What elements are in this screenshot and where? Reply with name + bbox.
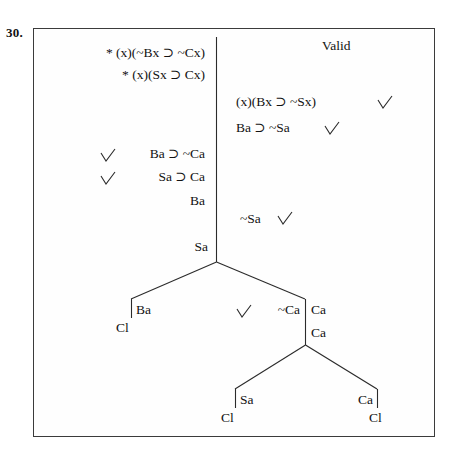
branch1-right-stem-1: Ca [311,303,326,317]
branch2-left-closed: Cl [221,411,234,425]
left-formula-3: Ba [0,194,205,208]
premise-2: * (x)(Sx ⊃ Cx) [0,68,205,82]
tree-proof-page: 30. Valid * (x)(~Bx ⊃ ~Cx) * (x)(Sx ⊃ Cx… [0,0,460,459]
proof-box [33,28,435,437]
trunk-node-2: Sa [0,240,208,254]
left-formula-2: Sa ⊃ Ca [0,170,205,184]
branch1-left-node: Ba [136,303,151,317]
branch1-right-node: ~Ca [230,303,300,317]
right-formula-2: Ba ⊃ ~Sa [236,121,290,135]
left-formula-1: Ba ⊃ ~Ca [0,147,205,161]
checkmark-icon [323,121,341,137]
premise-1: * (x)(~Bx ⊃ ~Cx) [0,46,205,60]
problem-number: 30. [6,25,23,41]
trunk-node-1: ~Sa [240,212,261,226]
checkmark-icon [376,95,394,111]
branch2-right-closed: Cl [369,411,382,425]
branch1-left-closed: Cl [116,321,129,335]
branch1-right-stem-2: Ca [311,326,326,340]
branch2-right-node: Ca [318,393,373,407]
right-formula-1: (x)(Bx ⊃ ~Sx) [236,95,316,109]
branch2-left-node: Sa [240,393,254,407]
checkmark-icon [276,211,294,227]
verdict-label: Valid [322,38,351,54]
